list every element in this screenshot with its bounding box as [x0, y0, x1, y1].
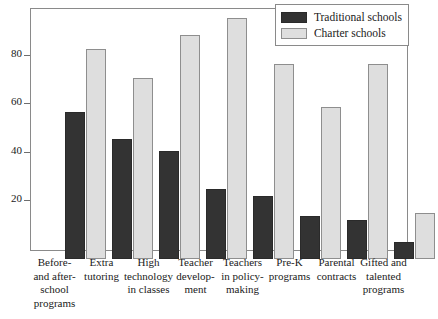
x-axis-label: Before-and after-schoolprograms [29, 256, 80, 310]
bar-charter [321, 107, 341, 259]
x-axis-label-line: school [29, 283, 80, 297]
y-axis: 20406080 [0, 8, 31, 251]
legend-label: Traditional schools [314, 11, 402, 23]
bar-charter [415, 213, 435, 259]
bar-traditional [159, 151, 179, 259]
x-axis-label-line: programs [264, 270, 315, 284]
x-axis-label: Pre-Kprograms [264, 256, 315, 283]
bar-group [203, 18, 250, 259]
x-axis-label-line: and after- [29, 270, 80, 284]
x-axis-label-line: programs [29, 297, 80, 311]
x-axis-label-line: programs [358, 283, 409, 297]
x-axis-label-line: talented [358, 270, 409, 284]
bar-group [250, 18, 297, 259]
bar-group [344, 18, 391, 259]
bars-layer [62, 18, 438, 259]
bar-group [156, 18, 203, 259]
x-axis-label-line: Teacher [170, 256, 221, 270]
x-axis-label-line: High [123, 256, 174, 270]
legend-item: Charter schools [281, 25, 402, 41]
x-axis-label-line: Before- [29, 256, 80, 270]
bar-group [297, 18, 344, 259]
x-axis-label: Teacherdevelop-ment [170, 256, 221, 297]
x-axis-label-line: Pre-K [264, 256, 315, 270]
bar-charter [180, 35, 200, 259]
x-axis-label-line: in classes [123, 283, 174, 297]
x-axis-label-line: ment [170, 283, 221, 297]
x-axis-label-line: tutoring [76, 270, 127, 284]
y-axis-tick-label: 20 [11, 193, 22, 204]
x-axis-label-line: Extra [76, 256, 127, 270]
bar-group [109, 18, 156, 259]
legend-swatch-charter [281, 28, 307, 39]
bar-charter [368, 64, 388, 259]
x-axis-label: Hightechnologyin classes [123, 256, 174, 297]
x-axis-label-line: making [217, 283, 268, 297]
x-axis-label: Extratutoring [76, 256, 127, 283]
x-axis-label-line: technology [123, 270, 174, 284]
bar-charter [274, 64, 294, 259]
y-axis-tick-label: 40 [11, 145, 22, 156]
bar-traditional [206, 189, 226, 259]
x-axis-label-line: Teachers [217, 256, 268, 270]
y-axis-tick-label: 80 [11, 48, 22, 59]
x-axis-labels: Before-and after-schoolprogramsExtratuto… [31, 256, 407, 318]
legend-swatch-traditional [281, 12, 307, 23]
x-axis-label-line: Gifted and [358, 256, 409, 270]
chart-legend: Traditional schoolsCharter schools [275, 4, 409, 46]
legend-label: Charter schools [314, 27, 386, 39]
x-axis-label: Teachersin policy-making [217, 256, 268, 297]
bar-traditional [253, 196, 273, 259]
bar-traditional [112, 139, 132, 260]
x-axis-label-line: Parental [311, 256, 362, 270]
bar-charter [227, 18, 247, 259]
x-axis-label-line: develop- [170, 270, 221, 284]
bar-charter [86, 49, 106, 259]
x-axis-label: Gifted andtalentedprograms [358, 256, 409, 297]
bar-traditional [65, 112, 85, 259]
y-axis-tick-label: 60 [11, 96, 22, 107]
x-axis-label-line: contracts [311, 270, 362, 284]
x-axis-label: Parentalcontracts [311, 256, 362, 283]
bar-charter [133, 78, 153, 259]
bar-traditional [347, 220, 367, 259]
x-axis-label-line: in policy- [217, 270, 268, 284]
legend-item: Traditional schools [281, 9, 402, 25]
bar-group [62, 18, 109, 259]
bar-group [391, 18, 438, 259]
bar-traditional [300, 216, 320, 259]
